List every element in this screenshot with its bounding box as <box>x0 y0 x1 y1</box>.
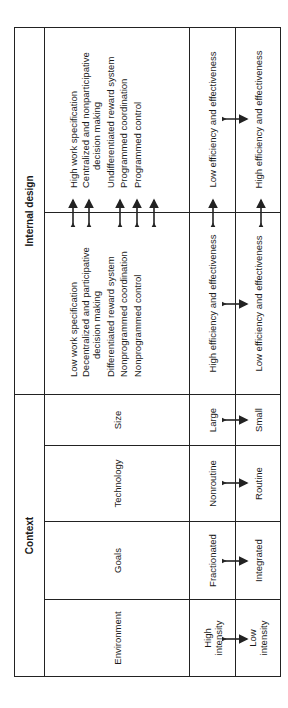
column-head-goals: Goals <box>44 521 190 600</box>
goals-label: Goals <box>112 548 123 573</box>
list-item: Nonprogrammed coordination <box>118 247 130 377</box>
environment-label: Environment <box>112 611 123 664</box>
list-item: Undifferentiated reward system <box>105 52 117 188</box>
list-item: Low work specification <box>68 247 80 377</box>
column-head-technology: Technology <box>44 445 190 522</box>
context-design-table: Context Internal design Environment Goal… <box>14 27 281 677</box>
context-label: Context <box>24 517 35 554</box>
column-head-environment: Environment <box>44 599 190 677</box>
list-item: Nonprogrammed control <box>132 247 144 377</box>
list-item: Centralized and nonparticipative <box>80 52 92 188</box>
organic-design-list: Low work specification Decentralized and… <box>44 212 190 395</box>
list-item: decision making <box>91 52 103 188</box>
list-item: High work specification <box>68 52 80 188</box>
column-head-size: Size <box>44 394 190 446</box>
list-item: decision making <box>91 247 103 377</box>
list-item: Differentiated reward system <box>105 247 117 377</box>
mechanistic-design-list: High work specification Centralized and … <box>44 27 190 212</box>
double-arrow-icon <box>192 197 281 227</box>
technology-label: Technology <box>112 459 123 507</box>
list-item: Programmed coordination <box>118 52 130 188</box>
size-label: Size <box>112 411 123 429</box>
list-item: Decentralized and participative <box>80 247 92 377</box>
context-group-header: Context <box>14 394 45 677</box>
double-arrow-icon <box>222 27 250 677</box>
list-item: Programmed control <box>132 52 144 188</box>
